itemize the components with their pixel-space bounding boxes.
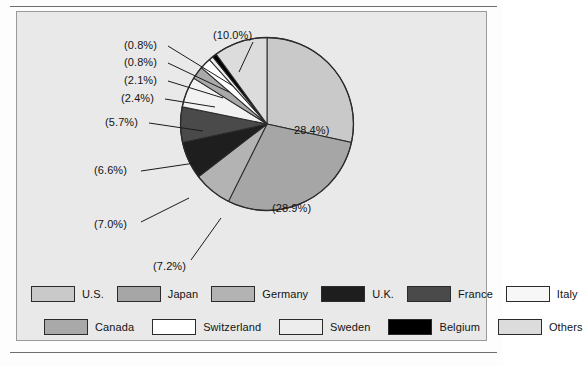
legend-swatch xyxy=(279,319,323,335)
legend: U.S.JapanGermanyU.K.FranceItaly CanadaSw… xyxy=(17,274,488,342)
callout-canada: (2.4%) xyxy=(121,92,154,104)
legend-swatch xyxy=(388,319,432,335)
slice-label-japan: (28.9%) xyxy=(272,202,311,214)
legend-swatch xyxy=(44,319,88,335)
legend-label: Italy xyxy=(557,288,578,300)
legend-row-2: CanadaSwitzerlandSwedenBelgiumOthers xyxy=(44,317,583,337)
legend-swatch xyxy=(152,319,196,335)
legend-item-japan[interactable]: Japan xyxy=(117,286,198,302)
legend-label: France xyxy=(458,288,493,300)
legend-item-canada[interactable]: Canada xyxy=(44,319,134,335)
leader-germany xyxy=(191,218,221,260)
chart-panel: 28.4%) (28.9%) (10.0%) (0.8%) (0.8%) (2.… xyxy=(16,11,487,341)
legend-item-belgium[interactable]: Belgium xyxy=(388,319,479,335)
legend-row-1: U.S.JapanGermanyU.K.FranceItaly xyxy=(31,284,578,304)
callout-belgium: (0.8%) xyxy=(124,39,157,51)
bottom-rule xyxy=(10,352,497,353)
legend-swatch xyxy=(407,286,451,302)
legend-item-uk[interactable]: U.K. xyxy=(321,286,394,302)
legend-swatch xyxy=(321,286,365,302)
callout-switzerland: (2.1%) xyxy=(124,74,157,86)
callout-germany: (7.2%) xyxy=(153,260,186,272)
legend-item-germany[interactable]: Germany xyxy=(211,286,308,302)
legend-label: Germany xyxy=(262,288,308,300)
legend-label: Belgium xyxy=(439,321,479,333)
callout-sweden: (0.8%) xyxy=(124,56,157,68)
pie-chart xyxy=(174,31,360,217)
legend-label: U.K. xyxy=(372,288,394,300)
legend-swatch xyxy=(498,319,542,335)
legend-label: Japan xyxy=(168,288,198,300)
callout-france: (6.6%) xyxy=(94,164,127,176)
legend-item-others[interactable]: Others xyxy=(498,319,583,335)
plot-area: 28.4%) (28.9%) (10.0%) (0.8%) (0.8%) (2.… xyxy=(17,12,488,274)
legend-swatch xyxy=(211,286,255,302)
legend-label: Sweden xyxy=(330,321,370,333)
legend-swatch xyxy=(31,286,75,302)
legend-label: Switzerland xyxy=(203,321,261,333)
legend-item-us[interactable]: U.S. xyxy=(31,286,104,302)
callout-uk: (7.0%) xyxy=(94,218,127,230)
callout-others: (10.0%) xyxy=(213,29,252,41)
callout-italy: (5.7%) xyxy=(105,116,138,128)
pie-svg xyxy=(174,31,360,217)
legend-swatch xyxy=(117,286,161,302)
legend-label: Others xyxy=(549,321,583,333)
slice-label-us: 28.4%) xyxy=(294,124,329,136)
legend-item-switzerland[interactable]: Switzerland xyxy=(152,319,261,335)
legend-item-sweden[interactable]: Sweden xyxy=(279,319,370,335)
legend-item-france[interactable]: France xyxy=(407,286,493,302)
legend-swatch xyxy=(506,286,550,302)
legend-label: Canada xyxy=(95,321,134,333)
legend-label: U.S. xyxy=(82,288,104,300)
legend-item-italy[interactable]: Italy xyxy=(506,286,578,302)
top-rule xyxy=(10,6,497,7)
